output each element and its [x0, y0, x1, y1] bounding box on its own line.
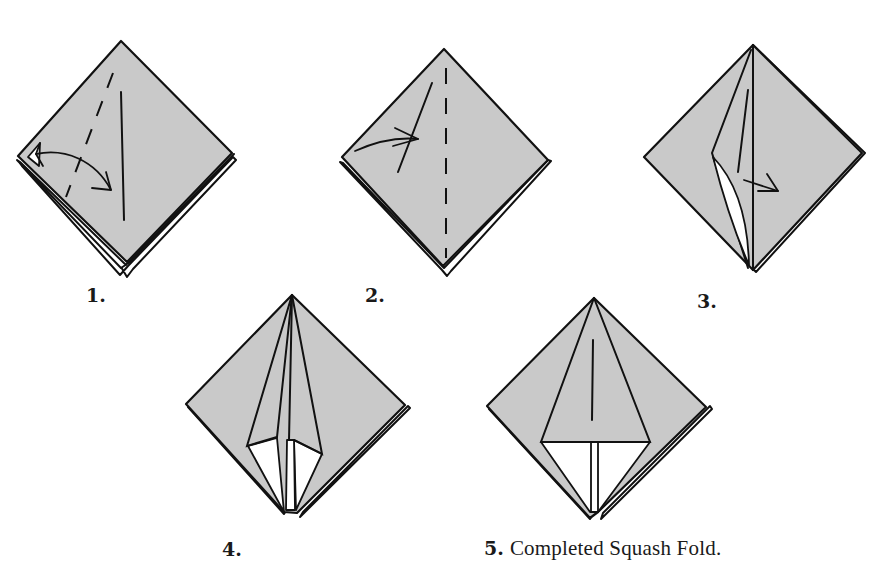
step-1-paper-square	[18, 41, 232, 262]
step-5-label: 5. Completed Squash Fold.	[484, 538, 721, 559]
step-1-label: 1.	[86, 286, 106, 305]
step-5-center-crease	[592, 340, 593, 420]
diagram-canvas	[0, 0, 890, 571]
step-3-diagram	[644, 45, 865, 272]
step-4-number: 4.	[222, 538, 242, 560]
step-5-center-strip	[591, 442, 598, 512]
step-5-diagram	[487, 298, 712, 519]
step-1-number: 1.	[86, 284, 106, 306]
step-3-label: 3.	[697, 292, 717, 311]
step-1-diagram	[17, 41, 236, 277]
step-2-label: 2.	[365, 286, 385, 305]
step-4-center-strip	[286, 440, 295, 510]
step-4-label: 4.	[222, 540, 242, 559]
step-5-description: Completed Squash Fold.	[510, 536, 722, 560]
step-2-diagram	[340, 49, 551, 276]
step-3-number: 3.	[697, 290, 717, 312]
step-2-number: 2.	[365, 284, 385, 306]
step-5-number: 5.	[484, 537, 504, 559]
step-4-diagram	[186, 295, 410, 517]
